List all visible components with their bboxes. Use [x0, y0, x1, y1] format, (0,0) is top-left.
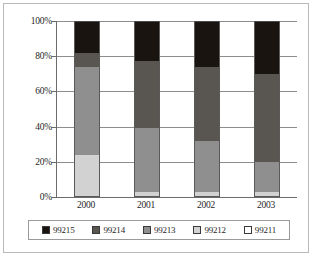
bar-segment-99212-2002[interactable]: [194, 192, 220, 197]
y-axis-tick-label: 80%: [10, 51, 52, 61]
bar-segment-99214-2002[interactable]: [194, 67, 220, 141]
x-axis-labels: 2000200120022003: [56, 200, 296, 216]
y-axis-tick-label: 40%: [10, 122, 52, 132]
legend-item-99213[interactable]: 99213: [143, 225, 176, 235]
legend-item-99211[interactable]: 99211: [244, 225, 276, 235]
bar-segment-99215-2003[interactable]: [254, 21, 280, 74]
legend-swatch-icon: [143, 226, 151, 234]
y-axis-tick: [51, 127, 57, 128]
y-axis-tick-label: 100%: [10, 16, 52, 26]
legend-label: 99211: [255, 225, 276, 235]
plot-area: [56, 21, 297, 198]
bar-segment-99212-2003[interactable]: [254, 192, 280, 197]
plot-wrapper: 0%20%40%60%80%100% 2000200120022003: [4, 4, 310, 216]
x-axis-tick-label: 2002: [176, 200, 236, 211]
bar-segment-99212-2001[interactable]: [134, 192, 160, 197]
bar-2001[interactable]: [134, 21, 160, 197]
bar-segment-99214-2001[interactable]: [134, 61, 160, 128]
y-axis-tick: [51, 56, 57, 57]
legend-swatch-icon: [244, 226, 252, 234]
legend-label: 99215: [53, 225, 75, 235]
legend-label: 99214: [103, 225, 125, 235]
x-axis-tick-label: 2000: [56, 200, 116, 211]
bar-2003[interactable]: [254, 21, 280, 197]
y-axis-tick: [51, 91, 57, 92]
legend-swatch-icon: [42, 226, 50, 234]
bar-segment-99215-2001[interactable]: [134, 21, 160, 61]
bar-segment-99212-2000[interactable]: [74, 155, 100, 197]
legend-label: 99213: [154, 225, 176, 235]
legend-label: 99212: [204, 225, 226, 235]
x-axis-tick-label: 2003: [236, 200, 296, 211]
legend-item-99215[interactable]: 99215: [42, 225, 75, 235]
bar-segment-99215-2002[interactable]: [194, 21, 220, 67]
legend-item-99212[interactable]: 99212: [193, 225, 226, 235]
y-axis-tick: [51, 162, 57, 163]
y-axis-tick-label: 20%: [10, 157, 52, 167]
bar-segment-99214-2003[interactable]: [254, 74, 280, 162]
bar-2002[interactable]: [194, 21, 220, 197]
bar-segment-99213-2000[interactable]: [74, 67, 100, 155]
bar-segment-99213-2001[interactable]: [134, 128, 160, 191]
x-axis-tick-label: 2001: [116, 200, 176, 211]
chart-legend: 9921599214992139921299211: [28, 220, 290, 240]
y-axis-labels: 0%20%40%60%80%100%: [10, 21, 52, 197]
bar-2000[interactable]: [74, 21, 100, 197]
bar-segment-99214-2000[interactable]: [74, 53, 100, 67]
y-axis-tick-label: 0%: [10, 192, 52, 202]
y-axis-tick: [51, 197, 57, 198]
bar-segment-99213-2003[interactable]: [254, 162, 280, 192]
legend-item-99214[interactable]: 99214: [92, 225, 125, 235]
bar-segment-99213-2002[interactable]: [194, 141, 220, 192]
y-axis-tick: [51, 21, 57, 22]
legend-swatch-icon: [193, 226, 201, 234]
y-axis-tick-label: 60%: [10, 86, 52, 96]
chart-frame: 0%20%40%60%80%100% 2000200120022003 9921…: [3, 3, 309, 253]
legend-swatch-icon: [92, 226, 100, 234]
bar-segment-99215-2000[interactable]: [74, 21, 100, 53]
